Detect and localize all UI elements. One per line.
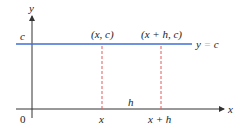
point-x-plus-h-c-label: (x + h, c) (141, 28, 182, 41)
c-label: c (20, 30, 25, 42)
line-equation-label: y = c (195, 38, 219, 50)
x-axis-label: x (227, 103, 233, 115)
constant-function-diagram: y x 0 c (x, c) (x + h, c) y = c x x + h … (0, 0, 236, 129)
point-x-c-label: (x, c) (91, 28, 114, 41)
x-plus-h-tick-label: x + h (147, 113, 172, 125)
origin-label: 0 (20, 113, 26, 125)
x-tick-label: x (98, 113, 104, 125)
y-axis-label: y (28, 2, 34, 14)
h-label: h (128, 96, 134, 108)
